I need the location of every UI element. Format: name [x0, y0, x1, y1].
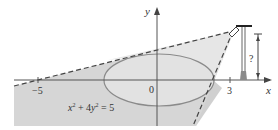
height-unknown-label: ?: [249, 53, 254, 64]
x-axis-arrow-icon: [264, 77, 272, 83]
x-axis-label: x: [265, 84, 271, 96]
origin-label: 0: [149, 84, 154, 95]
tick-label-neg5: −5: [32, 85, 43, 96]
y-axis-arrow-icon: [154, 7, 160, 15]
diagram-figure: y x 0 −5 3 ? x2 + 4y2 = 5: [0, 0, 278, 130]
tick-label-3: 3: [227, 85, 232, 96]
height-arrow-down-icon: [256, 73, 260, 78]
lamp-head-icon: [229, 27, 239, 37]
y-axis-label: y: [144, 5, 150, 17]
height-arrow-up-icon: [256, 36, 260, 41]
lamp-base: [240, 71, 247, 80]
